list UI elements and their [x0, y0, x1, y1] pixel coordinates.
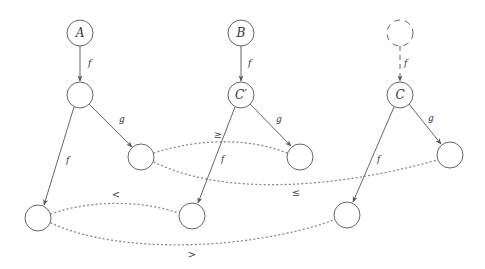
edge-N1-f: [44, 107, 74, 205]
node-dashed-unknown: [387, 20, 413, 46]
node-label-C: C: [395, 88, 404, 102]
edge-Cprime-g: [250, 104, 291, 146]
node-C-f-child: [334, 202, 360, 228]
relation-label-gt: >: [188, 249, 196, 260]
edge-label-D-C: f: [403, 58, 409, 68]
node-Cprime-g-child: [287, 144, 313, 170]
edge-label-B-Cprime: f: [247, 58, 253, 68]
node-label-Cprime: C′: [235, 88, 247, 102]
edge-Cprime-f: [198, 107, 235, 203]
edge-label-N1-f: f: [65, 155, 71, 165]
edge-label-A-N1: f: [87, 58, 93, 68]
node-C-g-child: [437, 142, 463, 168]
tree-comparison-diagram: A B C′ C f f f g f g f g f ≥ ≤ < >: [0, 0, 485, 269]
edge-label-C-f: f: [376, 154, 382, 164]
edge-label-Cprime-g: g: [276, 114, 282, 124]
node-N1-f-child: [25, 205, 51, 231]
edge-C-g: [409, 104, 441, 144]
node-N1: [67, 82, 93, 108]
relation-label-le: ≤: [292, 187, 300, 198]
edge-label-C-g: g: [428, 113, 434, 123]
edge-N1-g: [89, 104, 132, 147]
edge-label-N1-g: g: [119, 114, 125, 124]
relation-label-ge: ≥: [214, 129, 222, 140]
relation-label-lt: <: [112, 189, 120, 200]
node-label-B: B: [236, 26, 246, 40]
relation-lt-curve: [51, 203, 179, 214]
edge-C-f: [353, 107, 394, 202]
edge-label-Cprime-f: f: [220, 154, 226, 164]
node-N1-g-child: [128, 144, 154, 170]
node-label-A: A: [75, 26, 85, 40]
node-Cprime-f-child: [179, 203, 205, 229]
